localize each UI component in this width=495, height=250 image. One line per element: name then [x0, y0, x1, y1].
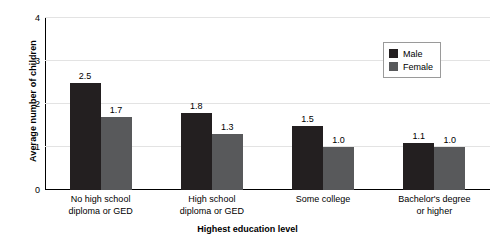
- legend-label-female: Female: [403, 62, 433, 72]
- legend-swatch-female-icon: [389, 62, 398, 71]
- legend-item-male: Male: [389, 47, 433, 60]
- x-axis-category-label: Some college: [268, 194, 379, 206]
- bar-female: 1.7: [101, 117, 132, 190]
- y-axis-tick-label: 2: [35, 99, 40, 109]
- bar-value-label: 1.8: [190, 101, 203, 111]
- bar-group: 1.51.0: [292, 18, 354, 190]
- bar-value-label: 1.7: [110, 105, 123, 115]
- bar-value-label: 1.0: [332, 135, 345, 145]
- x-axis-category-label: No high schooldiploma or GED: [45, 194, 156, 217]
- bar-value-label: 1.3: [221, 122, 234, 132]
- bar-male: 1.1: [403, 143, 434, 190]
- bar-group: 2.51.7: [70, 18, 132, 190]
- y-axis-tick-label: 1: [35, 142, 40, 152]
- bar-male: 1.8: [181, 113, 212, 190]
- x-axis-category-label: High schooldiploma or GED: [156, 194, 267, 217]
- x-axis-title: Highest education level: [0, 224, 495, 234]
- bar-male: 2.5: [70, 83, 101, 191]
- bar-group: 1.81.3: [181, 18, 243, 190]
- legend-item-female: Female: [389, 60, 433, 73]
- bar-female: 1.0: [434, 147, 465, 190]
- bar-female: 1.3: [212, 134, 243, 190]
- bar-value-label: 2.5: [79, 71, 92, 81]
- chart-legend: Male Female: [383, 42, 441, 78]
- y-axis-tick-label: 4: [35, 13, 40, 23]
- bar-chart: Average number of children 01234 2.51.71…: [0, 0, 495, 250]
- y-axis-tick-label: 0: [35, 185, 40, 195]
- bar-female: 1.0: [323, 147, 354, 190]
- legend-swatch-male-icon: [389, 49, 398, 58]
- y-axis-tick-label: 3: [35, 56, 40, 66]
- legend-label-male: Male: [403, 49, 423, 59]
- bar-value-label: 1.5: [301, 114, 314, 124]
- bar-male: 1.5: [292, 126, 323, 191]
- bar-value-label: 1.1: [413, 131, 426, 141]
- bar-value-label: 1.0: [444, 135, 457, 145]
- y-axis-line: [45, 18, 46, 190]
- x-axis-category-label: Bachelor's degreeor higher: [379, 194, 490, 217]
